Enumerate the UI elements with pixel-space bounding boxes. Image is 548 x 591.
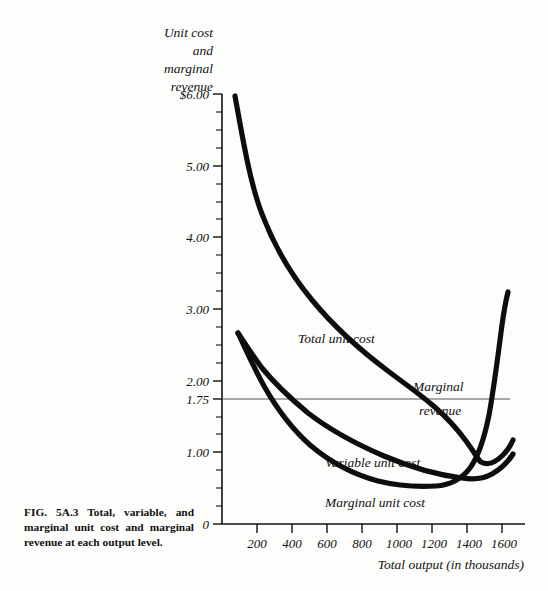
x-tick-label-600: 600 — [317, 536, 337, 551]
y-tick-label-3: 3.00 — [185, 302, 209, 317]
label-marginal-revenue-line-1: Marginal — [412, 379, 464, 394]
y-tick-label-5: 5.00 — [186, 159, 209, 174]
figure-page: Unit cost and marginal revenue — [0, 0, 548, 591]
y-axis-title: Unit cost and marginal revenue — [164, 25, 214, 94]
y-axis-title-line-1: Unit cost — [164, 25, 214, 40]
label-marginal-unit-cost: Marginal unit cost — [324, 495, 426, 510]
chart-canvas: Unit cost and marginal revenue — [0, 0, 548, 591]
y-axis-major-ticks — [213, 94, 222, 524]
x-tick-label-1200: 1200 — [421, 536, 448, 551]
y-tick-label-6: $6.00 — [180, 87, 210, 102]
label-variable-unit-cost: Variable unit cost — [325, 455, 421, 470]
x-tick-label-800: 800 — [352, 536, 372, 551]
x-tick-label-1600: 1600 — [491, 536, 518, 551]
y-axis-title-line-3: marginal — [164, 61, 213, 76]
x-tick-label-1400: 1400 — [456, 536, 483, 551]
x-axis-title: Total output (in thousands) — [378, 557, 525, 572]
x-tick-label-400: 400 — [282, 536, 302, 551]
x-axis-ticks — [257, 524, 502, 533]
x-axis-tick-labels: 200 400 600 800 1000 1200 1400 1600 — [247, 536, 517, 551]
label-total-unit-cost: Total unit cost — [298, 331, 376, 346]
y-tick-label-175: 1.75 — [186, 392, 209, 407]
y-tick-label-1: 1.00 — [186, 445, 209, 460]
y-tick-label-2: 2.00 — [186, 374, 209, 389]
y-axis-tick-labels: $6.00 5.00 4.00 3.00 2.00 1.75 1.00 0 — [180, 87, 210, 532]
label-marginal-revenue-line-2: revenue — [419, 403, 461, 418]
y-axis-title-line-2: and — [193, 43, 214, 58]
y-tick-label-0: 0 — [203, 517, 210, 532]
x-tick-label-200: 200 — [247, 536, 267, 551]
figure-caption: FIG. 5A.3 Total, variable, and marginal … — [24, 505, 194, 550]
x-tick-label-1000: 1000 — [386, 536, 413, 551]
y-tick-label-4: 4.00 — [186, 230, 209, 245]
